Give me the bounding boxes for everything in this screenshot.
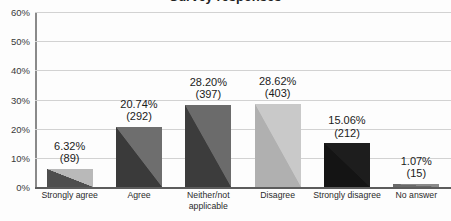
- bar-slot: 28.62%(403): [255, 12, 301, 187]
- x-tick-label: Disagree: [243, 190, 312, 201]
- bar-data-label: 1.07%(15): [401, 155, 432, 180]
- y-tick-label: 30%: [0, 96, 30, 106]
- bar-data-label: 28.62%(403): [259, 75, 296, 100]
- bar-label-count: (397): [190, 88, 227, 101]
- bar-data-label: 15.06%(212): [328, 114, 365, 139]
- bar-data-label: 6.32%(89): [54, 140, 85, 165]
- chart-title-cropped: Survey responses: [0, 0, 451, 7]
- bar-series: 6.32%(89)20.74%(292)28.20%(397)28.62%(40…: [35, 12, 451, 187]
- bar-slot: 28.20%(397): [185, 12, 231, 187]
- bar-label-percent: 28.62%: [259, 75, 296, 87]
- bar-label-percent: 20.74%: [120, 98, 157, 110]
- x-tick-label: Agree: [104, 190, 173, 201]
- bar: [116, 127, 162, 187]
- bar-data-label: 20.74%(292): [120, 98, 157, 123]
- bar: [47, 169, 93, 187]
- bar-slot: 6.32%(89): [47, 12, 93, 187]
- y-tick-label: 10%: [0, 154, 30, 164]
- x-tick-label: Strongly disagree: [312, 190, 381, 201]
- bar: [393, 184, 439, 187]
- bar-label-count: (15): [401, 167, 432, 180]
- y-tick-label: 40%: [0, 66, 30, 76]
- bar-slot: 15.06%(212): [324, 12, 370, 187]
- bar: [324, 143, 370, 187]
- bar: [255, 104, 301, 187]
- bar-label-count: (89): [54, 152, 85, 165]
- bar-label-count: (403): [259, 87, 296, 100]
- y-tick-label: 0%: [0, 183, 30, 193]
- axis-baseline: [35, 187, 451, 189]
- bar-label-percent: 1.07%: [401, 155, 432, 167]
- bar: [185, 105, 231, 187]
- bar-label-percent: 28.20%: [190, 76, 227, 88]
- x-tick-label: Strongly agree: [35, 190, 104, 201]
- bar-chart: Survey responses 0%10%20%30%40%50%60% 6.…: [0, 0, 451, 221]
- bar-label-count: (292): [120, 110, 157, 123]
- bar-label-count: (212): [328, 127, 365, 140]
- x-tick-label: Neither/not applicable: [174, 190, 243, 211]
- bar-label-percent: 15.06%: [328, 114, 365, 126]
- bar-label-percent: 6.32%: [54, 140, 85, 152]
- bar-data-label: 28.20%(397): [190, 76, 227, 101]
- x-axis-tick-labels: Strongly agreeAgreeNeither/not applicabl…: [35, 190, 451, 221]
- y-tick-label: 20%: [0, 125, 30, 135]
- bar-slot: 20.74%(292): [116, 12, 162, 187]
- x-tick-label: No answer: [382, 190, 451, 201]
- y-tick-label: 60%: [0, 8, 30, 18]
- bar-slot: 1.07%(15): [393, 12, 439, 187]
- y-tick-label: 50%: [0, 37, 30, 47]
